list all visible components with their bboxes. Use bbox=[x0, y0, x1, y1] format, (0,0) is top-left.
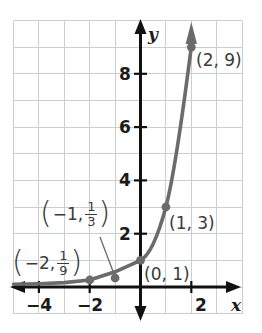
open-paren: ( bbox=[12, 251, 24, 274]
annotation-point-neg2: ( −2, 1 9 ) bbox=[12, 249, 82, 277]
y-tick-label-8: 8 bbox=[119, 66, 131, 83]
exponential-curve bbox=[14, 22, 198, 284]
close-paren: ) bbox=[98, 202, 110, 225]
y-axis-label: y bbox=[148, 26, 158, 43]
fraction-numerator: 1 bbox=[57, 249, 69, 263]
fraction-one-ninth: 1 9 bbox=[57, 249, 69, 277]
fraction-numerator: 1 bbox=[85, 200, 97, 214]
y-tick-label-6: 6 bbox=[119, 119, 131, 136]
x-value-text: −2, bbox=[24, 255, 56, 272]
y-tick-label-4: 4 bbox=[119, 172, 131, 189]
data-point-marker bbox=[111, 274, 120, 283]
open-paren: ( bbox=[40, 202, 52, 225]
leader-line bbox=[100, 237, 114, 274]
annotation-point-two: (2, 9) bbox=[196, 52, 242, 69]
annotation-point-neg1: ( −1, 1 3 ) bbox=[40, 200, 110, 228]
x-tick-label-2: 2 bbox=[195, 297, 207, 314]
x-value-text: −1, bbox=[52, 206, 84, 223]
exponential-graph-figure: 8 6 4 2 −4 −2 2 y x (2, 9) (1, 3) (0, 1)… bbox=[0, 0, 262, 333]
data-point-marker bbox=[162, 203, 171, 212]
x-tick-label-neg2: −2 bbox=[77, 297, 103, 314]
fraction-denominator: 3 bbox=[85, 214, 97, 229]
fraction-one-third: 1 3 bbox=[85, 200, 97, 228]
close-paren: ) bbox=[70, 251, 82, 274]
data-point-marker bbox=[187, 43, 196, 52]
data-point-marker bbox=[85, 276, 94, 285]
fraction-denominator: 9 bbox=[57, 263, 69, 278]
x-tick-label-neg4: −4 bbox=[26, 297, 52, 314]
x-axis-label: x bbox=[231, 297, 241, 314]
annotation-point-zero: (0, 1) bbox=[144, 266, 190, 283]
y-tick-label-2: 2 bbox=[119, 226, 131, 243]
annotation-point-one: (1, 3) bbox=[169, 215, 215, 232]
